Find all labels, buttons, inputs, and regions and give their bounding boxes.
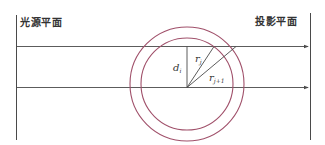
rj1-label: rj+1 xyxy=(209,72,225,85)
rj-label: rj xyxy=(195,53,202,66)
di-label: di xyxy=(173,62,181,74)
diagram-canvas: di rj rj+1 xyxy=(0,0,325,145)
